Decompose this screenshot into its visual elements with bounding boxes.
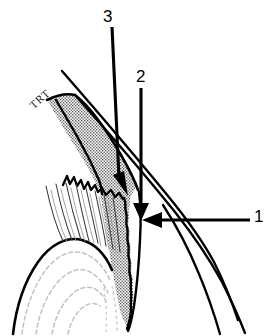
anatomical-illustration: [0, 0, 267, 336]
figure-background: [0, 0, 267, 336]
figure-canvas: 3 2 1 TRT: [0, 0, 267, 336]
callout-label-1: 1: [254, 208, 263, 225]
callout-label-2: 2: [136, 68, 145, 85]
callout-label-3: 3: [103, 8, 112, 25]
